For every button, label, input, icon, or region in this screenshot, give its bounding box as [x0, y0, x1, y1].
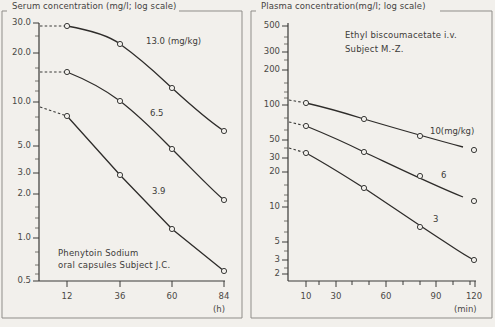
x-tick-label: 120	[460, 292, 488, 301]
y-minor-ticks-right	[284, 37, 288, 268]
curve-label-3: 3	[433, 214, 438, 224]
annotation-line-2-left: oral capsules Subject J.C.	[58, 259, 170, 271]
annotation-line-1-left: Phenytoin Sodium	[58, 247, 138, 259]
series-65-line	[67, 72, 224, 200]
annotation-line-2-right: Subject M.-Z.	[345, 43, 404, 55]
x-axis-unit-right: (min)	[454, 304, 477, 314]
x-axis-unit-left: (h)	[213, 304, 225, 314]
panel-serum-concentration: Serum concentration (mg/l; log scale)	[0, 0, 245, 327]
x-tick-label: 12	[53, 292, 81, 301]
y-ticks-right	[282, 26, 288, 274]
x-tick-label: 60	[158, 292, 186, 301]
curve-label-39: 3.9	[152, 186, 166, 196]
y-tick-label: 300	[248, 47, 280, 56]
series-curve-65	[40, 69, 227, 202]
x-tick-label: 10	[292, 292, 320, 301]
series-65-markers	[64, 69, 226, 202]
curve-label-6: 6	[441, 170, 446, 180]
series-39-extrapolation	[40, 107, 67, 116]
y-tick-label: 0.5	[0, 276, 31, 285]
curve-label-13: 13.0 (mg/kg)	[146, 36, 201, 46]
x-tick-label: 30	[322, 292, 350, 301]
annotation-line-1-right: Ethyl biscoumacetate i.v.	[345, 29, 457, 41]
y-tick-label: 10	[248, 202, 280, 211]
y-tick-label: 3.0	[0, 168, 31, 177]
y-tick-label: 30.0	[0, 18, 31, 27]
plot-area-left	[0, 0, 245, 327]
y-tick-label: 50	[248, 135, 280, 144]
series-10-line	[306, 103, 463, 147]
y-tick-label: 2	[248, 269, 280, 278]
series-curve-3	[289, 148, 477, 263]
x-tick-label: 60	[372, 292, 400, 301]
y-tick-label: 30	[248, 153, 280, 162]
y-tick-label: 500	[248, 21, 280, 30]
series-3-line	[306, 153, 474, 260]
y-tick-label: 20	[248, 167, 280, 176]
series-6-line	[306, 126, 463, 197]
y-ticks-left	[33, 23, 39, 281]
panel-plasma-concentration: Plasma concentration(mg/l; log scale)	[248, 0, 495, 327]
x-ticks-right	[306, 281, 475, 287]
curve-label-65: 6.5	[150, 108, 164, 118]
y-tick-label: 200	[248, 65, 280, 74]
y-tick-label: 5.0	[0, 141, 31, 150]
x-tick-label: 84	[210, 292, 238, 301]
curve-label-10: 10(mg/kg)	[430, 126, 474, 136]
x-ticks-left	[67, 281, 224, 287]
y-tick-label: 1.0	[0, 233, 31, 242]
x-tick-label: 36	[106, 292, 134, 301]
x-tick-label: 90	[422, 292, 450, 301]
y-tick-label: 20.0	[0, 48, 31, 57]
y-tick-label: 2.0	[0, 189, 31, 198]
figure-container: Serum concentration (mg/l; log scale)	[0, 0, 495, 327]
y-tick-label: 10.0	[0, 97, 31, 106]
y-tick-label: 5	[248, 237, 280, 246]
y-tick-label: 100	[248, 100, 280, 109]
y-tick-label: 3	[248, 255, 280, 264]
